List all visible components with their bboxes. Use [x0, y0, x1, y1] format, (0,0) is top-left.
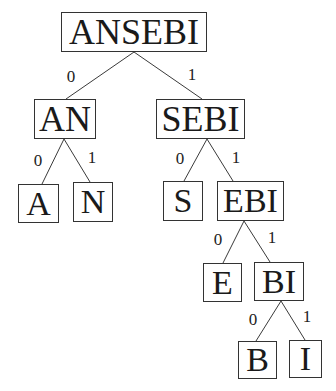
node-a: A	[18, 184, 59, 223]
node-label: I	[300, 342, 311, 376]
edge-bi-to-i	[281, 301, 305, 340]
edge-ebi-to-bi	[244, 221, 270, 262]
node-s: S	[163, 181, 203, 221]
edge-an-to-a	[42, 139, 64, 184]
node-b: B	[238, 341, 277, 379]
node-label: E	[212, 266, 233, 300]
edge-label-an-to-a: 0	[34, 152, 43, 169]
node-label: S	[174, 184, 193, 218]
node-an: AN	[34, 99, 96, 139]
node-sebi: SEBI	[156, 99, 245, 139]
node-label: SEBI	[161, 101, 239, 137]
edge-label-ansebi-to-sebi: 1	[188, 66, 197, 83]
node-ebi: EBI	[217, 181, 284, 221]
edge-label-bi-to-b: 0	[249, 311, 258, 328]
edge-ebi-to-e	[223, 221, 244, 263]
node-label: A	[26, 187, 51, 221]
node-label: BI	[262, 265, 296, 299]
edge-ansebi-to-an	[66, 52, 134, 99]
edge-label-sebi-to-s: 0	[176, 150, 185, 167]
edge-sebi-to-ebi	[207, 139, 233, 181]
node-e: E	[203, 263, 242, 302]
edge-an-to-n	[64, 139, 90, 182]
node-label: EBI	[223, 184, 278, 218]
node-label: N	[81, 185, 106, 219]
edge-label-bi-to-i: 1	[303, 308, 312, 325]
edge-label-ebi-to-bi: 1	[268, 229, 277, 246]
node-label: B	[246, 343, 269, 377]
node-ansebi: ANSEBI	[61, 12, 207, 52]
edge-label-sebi-to-ebi: 1	[232, 149, 241, 166]
edge-label-ansebi-to-an: 0	[67, 68, 76, 85]
node-n: N	[73, 182, 113, 222]
edge-bi-to-b	[256, 301, 281, 341]
edge-label-an-to-n: 1	[88, 149, 97, 166]
node-i: I	[289, 340, 322, 378]
node-label: ANSEBI	[69, 14, 199, 50]
edge-label-ebi-to-e: 0	[214, 231, 223, 248]
binary-tree-diagram: 0101010101 ANSEBIANSEBIANSEBIEBIBI	[0, 0, 336, 391]
node-bi: BI	[254, 262, 304, 301]
node-label: AN	[39, 101, 91, 137]
edge-sebi-to-s	[184, 139, 207, 181]
